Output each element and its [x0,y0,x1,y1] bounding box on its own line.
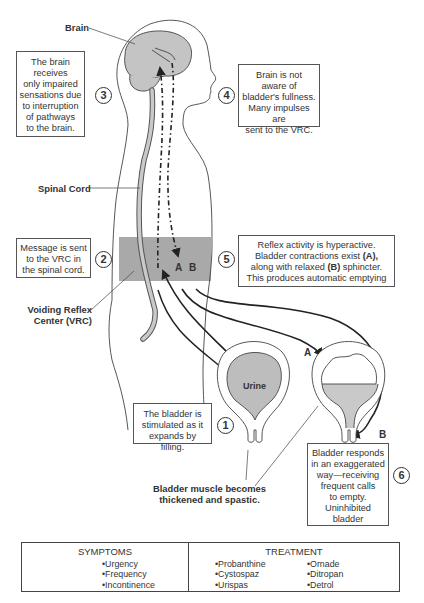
step-1-box: The bladder is stimulated as it expands … [133,403,212,444]
symptoms-treatment-table: SYMPTOMS Urgency Frequency Incontinence … [21,542,400,592]
symptom-item: Urgency [102,559,188,570]
step-1-number: 1 [217,417,234,434]
brain-label: Brain [65,22,89,33]
brain-shape [125,31,192,91]
bladder-muscle-label: Bladder muscle becomes thickened and spa… [142,483,277,505]
symptom-item: Incontinence [102,580,188,591]
step-5-number: 5 [218,251,235,268]
treatment-title: TREATMENT [189,547,399,558]
bladder-to-vrc-arrow [163,271,227,352]
step-3-number: 3 [95,87,112,104]
step-4-number: 4 [218,87,235,104]
treatment-item: Detrol [307,580,399,591]
urine-label: Urine [243,381,266,392]
body-outline [109,20,216,435]
treatment-item: Cystospaz [215,569,307,580]
step-2-box: Message is sent to the VRC in the spinal… [16,238,91,278]
label-b-vrc: B [189,262,196,273]
treatment-item: Ornade [307,559,399,570]
descending-pathway [168,63,178,256]
symptom-item: Frequency [102,569,188,580]
treatment-item: Urispas [215,580,307,591]
step-2-number: 2 [95,251,112,268]
step-5-box: Reflex activity is hyperactive. Bladder … [238,235,395,287]
symptoms-title: SYMPTOMS [22,547,188,558]
bladder-spastic [312,342,385,443]
label-a-bladder: A [304,347,311,358]
symptoms-list: Urgency Frequency Incontinence [22,559,188,591]
treatment-item: Probanthine [215,559,307,570]
label-b-bladder: B [379,429,386,440]
treatment-list-1: Probanthine Cystospaz Urispas [215,559,307,591]
spinal-cord-label: Spinal Cord [38,183,91,194]
step-4-box: Brain is not aware of bladder's fullness… [238,64,320,127]
treatment-list-2: Ornade Ditropan Detrol [307,559,399,591]
step-3-box: The brain receives only impaired sensati… [16,51,85,137]
vrc-label: Voiding Reflex Center (VRC) [24,304,92,326]
step-6-number: 6 [393,467,410,484]
step-6-box: Bladder responds in an exaggerated way—r… [307,443,389,526]
label-a-vrc: A [175,262,182,273]
symptoms-column: SYMPTOMS Urgency Frequency Incontinence [22,543,189,591]
treatment-item: Ditropan [307,569,399,580]
treatment-column: TREATMENT Probanthine Cystospaz Urispas … [189,543,399,591]
